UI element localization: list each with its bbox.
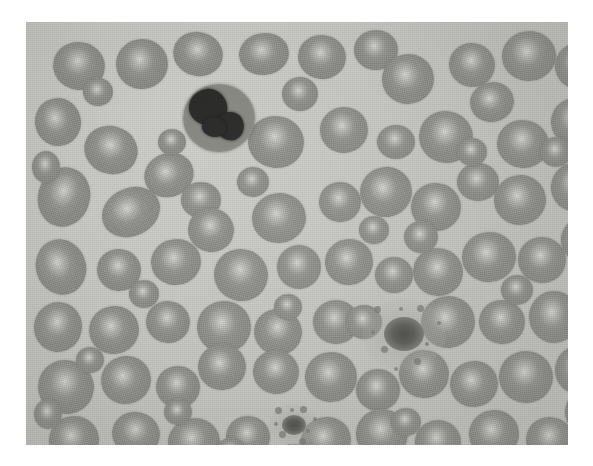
red-blood-cell xyxy=(457,138,487,166)
red-blood-cell xyxy=(457,163,499,201)
red-blood-cell xyxy=(114,37,170,91)
red-blood-cell xyxy=(168,26,228,81)
red-blood-cell xyxy=(29,298,86,357)
platelet-pseudopod xyxy=(287,444,291,445)
red-blood-cell xyxy=(490,171,550,229)
red-blood-cell xyxy=(404,221,438,253)
platelet-pseudopod xyxy=(306,429,310,433)
red-blood-cell xyxy=(356,369,400,411)
platelet-pseudopod xyxy=(313,417,317,421)
platelet xyxy=(282,415,306,435)
red-blood-cell xyxy=(354,161,417,223)
red-blood-cell xyxy=(415,420,461,445)
platelet-pseudopod xyxy=(394,367,398,371)
red-blood-cell xyxy=(249,189,309,246)
red-blood-cell xyxy=(375,257,413,293)
red-blood-cell xyxy=(277,245,321,289)
red-blood-cell xyxy=(237,167,269,197)
red-blood-cell xyxy=(391,408,421,436)
red-blood-cell xyxy=(236,30,291,79)
red-blood-cell xyxy=(527,289,568,344)
red-blood-cell xyxy=(29,233,94,302)
red-blood-cell xyxy=(540,137,568,167)
red-blood-cell xyxy=(318,105,369,154)
red-blood-cell xyxy=(95,350,156,410)
red-blood-cell xyxy=(555,346,568,394)
red-blood-cell xyxy=(30,93,86,151)
red-blood-cell xyxy=(164,399,192,425)
red-blood-cell xyxy=(322,236,377,289)
platelet-pseudopod xyxy=(274,422,278,426)
red-blood-cell xyxy=(129,280,159,308)
red-blood-cell xyxy=(76,347,104,373)
red-blood-cell xyxy=(359,216,389,244)
platelet-pseudopod xyxy=(381,346,388,353)
red-blood-cell xyxy=(466,406,523,445)
red-blood-cell xyxy=(274,294,302,320)
cell-layer xyxy=(26,22,568,445)
platelet-pseudopod xyxy=(374,306,381,313)
platelet-pseudopod xyxy=(275,407,282,414)
red-blood-cell xyxy=(83,78,113,106)
red-blood-cell xyxy=(78,119,144,181)
platelet-pseudopod xyxy=(425,342,429,346)
red-blood-cell xyxy=(497,349,555,406)
platelet xyxy=(384,317,424,351)
red-blood-cell xyxy=(522,413,568,445)
red-blood-cell xyxy=(158,129,186,155)
blood-smear-micrograph xyxy=(26,22,568,445)
platelet-pseudopod xyxy=(299,438,306,445)
red-blood-cell xyxy=(303,349,360,404)
red-blood-cell xyxy=(317,180,362,224)
red-blood-cell xyxy=(282,77,318,111)
red-blood-cell xyxy=(32,151,60,183)
platelet-pseudopod xyxy=(417,305,424,312)
red-blood-cell xyxy=(446,357,503,412)
red-blood-cell xyxy=(501,275,533,305)
page-root xyxy=(0,0,593,466)
red-blood-cell xyxy=(500,28,559,83)
red-blood-cell xyxy=(249,346,303,399)
red-blood-cell xyxy=(34,399,62,429)
red-blood-cell xyxy=(377,125,415,159)
red-blood-cell xyxy=(555,43,568,89)
red-blood-cell xyxy=(296,33,348,82)
caption xyxy=(26,448,568,464)
red-blood-cell xyxy=(195,341,249,393)
red-blood-cell xyxy=(107,407,164,445)
red-blood-cell xyxy=(209,243,274,307)
red-blood-cell xyxy=(549,161,568,214)
